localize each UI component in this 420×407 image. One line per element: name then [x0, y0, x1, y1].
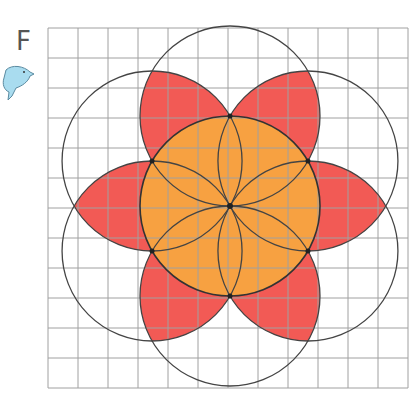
circle-center-dot: [228, 294, 233, 299]
flower-diagram: [0, 0, 420, 407]
circle-center-dot: [228, 114, 233, 119]
circle-center-dot: [305, 159, 310, 164]
circle-center-dot: [150, 159, 155, 164]
center-dot: [227, 203, 233, 209]
circle-center-dot: [150, 249, 155, 254]
circle-center-dot: [305, 249, 310, 254]
